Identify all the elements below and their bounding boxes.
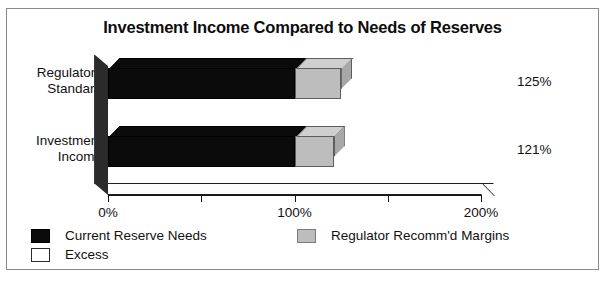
bar-segment-current-reserve-needs (108, 136, 295, 167)
plot-area: RegulatoryStandard InvestmentIncome (7, 47, 600, 212)
axis-floor (108, 183, 494, 195)
legend-item-label: Excess (65, 246, 109, 264)
x-axis-tick-label-100: 100% (255, 205, 335, 220)
x-axis-tick-label-0: 0% (68, 205, 148, 220)
bar-segment-regulator-margins (295, 68, 342, 99)
bar-segment-current-reserve-needs (108, 68, 295, 99)
legend-item-label: Regulator Recomm'd Margins (331, 227, 509, 245)
legend-swatch-icon (297, 229, 316, 243)
data-label-investment-income: 121% (517, 142, 587, 157)
axis-wall-edge (94, 55, 95, 184)
x-axis-tick-200 (481, 195, 482, 202)
data-label-regulatory-standard: 125% (517, 74, 587, 89)
bar-segment-regulator-margins (295, 136, 334, 167)
bar-segment-top-face (109, 58, 306, 69)
bar-segment-top-face (109, 126, 306, 137)
x-axis-tick-50 (201, 195, 202, 202)
legend-item-label: Current Reserve Needs (65, 227, 207, 245)
chart-frame: Investment Income Compared to Needs of R… (6, 8, 599, 270)
x-axis-tick-label-200: 200% (441, 205, 521, 220)
legend-swatch-icon (31, 248, 50, 262)
chart-legend: Current Reserve Needs Excess Regulator R… (7, 227, 600, 271)
legend-swatch-icon (31, 229, 50, 243)
x-axis-tick-0 (108, 195, 109, 202)
y-axis-label-investment-income: InvestmentIncome (0, 133, 102, 164)
x-axis-tick-150 (388, 195, 389, 202)
chart-title: Investment Income Compared to Needs of R… (7, 18, 598, 37)
x-axis-tick-100 (295, 195, 296, 202)
y-axis-label-regulatory-standard: RegulatoryStandard (0, 65, 102, 96)
axis-left-wall (95, 55, 108, 195)
